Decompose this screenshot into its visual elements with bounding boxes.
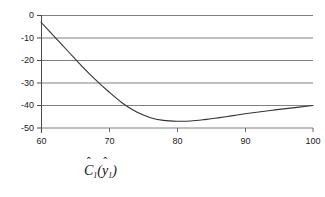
- gridlines: [41, 16, 313, 129]
- curve-actual: [41, 22, 313, 121]
- line-chart-svg: [0, 0, 325, 150]
- figure-caption: ˆC1(ˆy1): [84, 163, 117, 181]
- x-tick-label-100: 100: [298, 137, 325, 146]
- caption-c-subscript: 1: [93, 171, 97, 180]
- hat-accent-c-icon: ˆ: [87, 156, 91, 168]
- caption-close-paren: ): [112, 163, 117, 178]
- y-tick-label-neg30: -30: [8, 79, 34, 88]
- x-tick-label-60: 60: [27, 137, 57, 146]
- x-tick-label-90: 90: [231, 137, 261, 146]
- x-tick-label-70: 70: [95, 137, 125, 146]
- caption-c-hat: ˆC: [84, 163, 93, 179]
- y-tick-label-neg50: -50: [8, 124, 34, 133]
- y-tick-label-0: 0: [8, 11, 34, 20]
- y-tick-label-neg10: -10: [8, 34, 34, 43]
- x-tick-label-80: 80: [163, 137, 193, 146]
- y-tick-label-neg40: -40: [8, 101, 34, 110]
- y-tick-label-neg20: -20: [8, 56, 34, 65]
- figure-container: 0 -10 -20 -30 -40 -50 60 70 80 90 100 ˆC…: [0, 0, 325, 197]
- hat-accent-y-icon: ˆ: [103, 156, 107, 168]
- curve-path-c1: [41, 22, 313, 121]
- x-axis-ticks: [42, 128, 314, 133]
- chart-plot-area: 0 -10 -20 -30 -40 -50 60 70 80 90 100: [0, 0, 325, 150]
- y-axis-ticks: [37, 16, 41, 129]
- caption-y-subscript: 1: [108, 171, 112, 180]
